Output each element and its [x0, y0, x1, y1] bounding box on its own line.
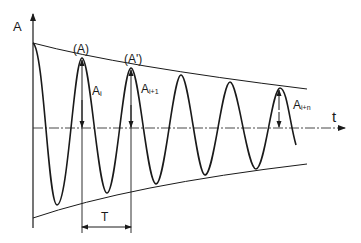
lower-envelope: [33, 164, 307, 218]
time-axis-label: t: [332, 108, 337, 125]
period-label: T: [101, 210, 109, 224]
oscillation-curve: [33, 43, 296, 205]
amplitude-label-i: Ai: [92, 84, 102, 98]
amplitude-label-in: Ai+n: [293, 98, 311, 112]
damped-oscillation-diagram: A t T (A) (A') Ai Ai+1 Ai+n: [0, 0, 361, 243]
y-axis-label: A: [13, 19, 22, 34]
peak-label-a-prime: (A'): [124, 52, 142, 66]
peak-label-a: (A): [73, 42, 89, 56]
amplitude-label-i1: Ai+1: [141, 82, 159, 96]
